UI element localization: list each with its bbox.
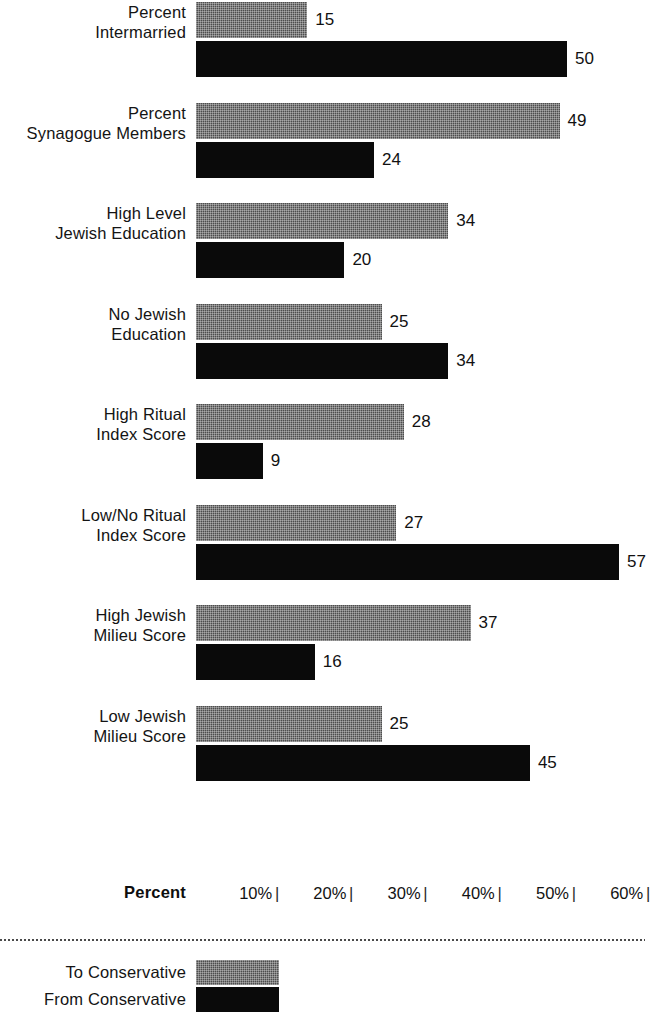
bar-row: 15 <box>196 2 645 38</box>
category-group: No Jewish Education2534 <box>0 304 645 400</box>
bar-row: 57 <box>196 544 645 580</box>
bar-row: 37 <box>196 605 645 641</box>
bar-row: 27 <box>196 505 645 541</box>
bar-from-conservative <box>196 41 567 77</box>
bar-row: 9 <box>196 443 645 479</box>
category-group: Percent Intermarried1550 <box>0 2 645 98</box>
category-group: Low Jewish Milieu Score2545 <box>0 706 645 802</box>
category-group: High Jewish Milieu Score3716 <box>0 605 645 701</box>
bar-value-label: 24 <box>382 150 401 170</box>
bar-to-conservative <box>196 2 307 38</box>
x-axis-tick: 60%| <box>610 883 650 903</box>
bar-row: 50 <box>196 41 645 77</box>
bar-value-label: 20 <box>352 250 371 270</box>
x-axis-tick-label: 30% <box>388 884 421 902</box>
bar-row: 45 <box>196 745 645 781</box>
legend-separator-rule <box>0 939 645 941</box>
bar-row: 34 <box>196 343 645 379</box>
category-group: High Ritual Index Score289 <box>0 404 645 500</box>
bar-row: 34 <box>196 203 645 239</box>
tick-mark-icon: | <box>346 883 353 903</box>
category-label: Percent Intermarried <box>0 2 186 42</box>
bar-value-label: 16 <box>323 652 342 672</box>
category-label: Percent Synagogue Members <box>0 103 186 143</box>
bar-from-conservative <box>196 242 344 278</box>
x-axis-tick-label: 10% <box>239 884 272 902</box>
bar-value-label: 25 <box>390 312 409 332</box>
bar-row: 49 <box>196 103 645 139</box>
bar-row: 25 <box>196 706 645 742</box>
bar-row: 25 <box>196 304 645 340</box>
bar-value-label: 27 <box>404 513 423 533</box>
bar-to-conservative <box>196 203 448 239</box>
bar-from-conservative <box>196 644 315 680</box>
bar-value-label: 45 <box>538 753 557 773</box>
tick-mark-icon: | <box>421 883 428 903</box>
bar-from-conservative <box>196 745 530 781</box>
legend-color-swatch <box>196 987 279 1012</box>
bar-from-conservative <box>196 142 374 178</box>
bar-row: 28 <box>196 404 645 440</box>
tick-mark-icon: | <box>643 883 650 903</box>
bar-value-label: 34 <box>456 351 475 371</box>
bar-from-conservative <box>196 443 263 479</box>
bar-value-label: 37 <box>479 613 498 633</box>
legend-item: From Conservative <box>0 987 645 1013</box>
x-axis: Percent 10%|20%|30%|40%|50%|60%| <box>0 880 645 910</box>
x-axis-tick: 10%| <box>239 883 279 903</box>
bar-from-conservative <box>196 544 619 580</box>
category-label: High Jewish Milieu Score <box>0 605 186 645</box>
category-group: Low/No Ritual Index Score2757 <box>0 505 645 601</box>
legend-item: To Conservative <box>0 960 645 986</box>
x-axis-tick-label: 60% <box>610 884 643 902</box>
chart-legend: To ConservativeFrom Conservative <box>0 960 645 1015</box>
bar-to-conservative <box>196 304 382 340</box>
category-group: Percent Synagogue Members4924 <box>0 103 645 199</box>
category-label: Low Jewish Milieu Score <box>0 706 186 746</box>
x-axis-tick-label: 50% <box>536 884 569 902</box>
x-axis-tick: 40%| <box>462 883 502 903</box>
bar-value-label: 50 <box>575 49 594 69</box>
bar-to-conservative <box>196 404 404 440</box>
tick-mark-icon: | <box>495 883 502 903</box>
bar-value-label: 25 <box>390 714 409 734</box>
bar-row: 20 <box>196 242 645 278</box>
bar-value-label: 9 <box>271 451 280 471</box>
category-group: High Level Jewish Education3420 <box>0 203 645 299</box>
x-axis-tick: 50%| <box>536 883 576 903</box>
legend-item-label: From Conservative <box>0 989 186 1009</box>
bar-row: 24 <box>196 142 645 178</box>
bar-value-label: 49 <box>568 111 587 131</box>
bar-value-label: 28 <box>412 412 431 432</box>
bar-to-conservative <box>196 505 396 541</box>
x-axis-tick: 30%| <box>388 883 428 903</box>
x-axis-tick-label: 40% <box>462 884 495 902</box>
category-label: High Level Jewish Education <box>0 203 186 243</box>
tick-mark-icon: | <box>272 883 279 903</box>
bar-row: 16 <box>196 644 645 680</box>
category-label: No Jewish Education <box>0 304 186 344</box>
bar-value-label: 15 <box>315 10 334 30</box>
category-label: High Ritual Index Score <box>0 404 186 444</box>
category-label: Low/No Ritual Index Score <box>0 505 186 545</box>
bar-from-conservative <box>196 343 448 379</box>
bar-to-conservative <box>196 605 471 641</box>
x-axis-tick: 20%| <box>313 883 353 903</box>
bar-to-conservative <box>196 706 382 742</box>
x-axis-title: Percent <box>0 883 186 902</box>
bar-value-label: 34 <box>456 211 475 231</box>
tick-mark-icon: | <box>569 883 576 903</box>
x-axis-tick-label: 20% <box>313 884 346 902</box>
legend-color-swatch <box>196 960 279 985</box>
bar-value-label: 57 <box>627 552 646 572</box>
bar-to-conservative <box>196 103 560 139</box>
legend-item-label: To Conservative <box>0 962 186 982</box>
